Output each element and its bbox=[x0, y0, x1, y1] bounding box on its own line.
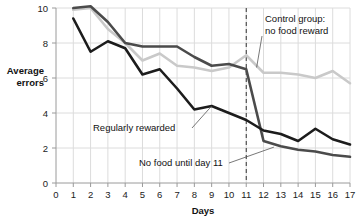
x-tick-label-8: 8 bbox=[192, 189, 197, 200]
x-tick-label-7: 7 bbox=[174, 189, 179, 200]
y-tick-label-10: 10 bbox=[37, 3, 48, 14]
y-axis-title-line2: errors bbox=[17, 77, 44, 88]
y-tick-label-8: 8 bbox=[43, 38, 48, 49]
y-axis-title-line1: Average bbox=[7, 65, 44, 76]
x-tick-label-16: 16 bbox=[327, 189, 338, 200]
line-chart: 01234567891011121314151617 0246810 Days … bbox=[0, 0, 357, 222]
x-tick-label-2: 2 bbox=[88, 189, 93, 200]
x-tick-label-1: 1 bbox=[71, 189, 76, 200]
annotation-regularly-rewarded-label: Regularly rewarded bbox=[93, 122, 175, 133]
y-tick-label-2: 2 bbox=[43, 143, 48, 154]
x-tick-label-14: 14 bbox=[293, 189, 304, 200]
x-tick-label-6: 6 bbox=[157, 189, 162, 200]
x-tick-label-3: 3 bbox=[105, 189, 110, 200]
annotation-control-line1: Control group: bbox=[265, 13, 325, 24]
x-tick-label-11: 11 bbox=[241, 189, 251, 200]
x-tick-label-4: 4 bbox=[123, 189, 128, 200]
chart-container: 01234567891011121314151617 0246810 Days … bbox=[0, 0, 357, 222]
x-tick-label-15: 15 bbox=[310, 189, 321, 200]
annotation-control-line2: no food reward bbox=[265, 25, 328, 36]
x-tick-label-17: 17 bbox=[345, 189, 356, 200]
y-tick-label-4: 4 bbox=[43, 108, 48, 119]
x-tick-label-5: 5 bbox=[140, 189, 145, 200]
y-tick-label-0: 0 bbox=[43, 178, 48, 189]
x-tick-label-9: 9 bbox=[209, 189, 214, 200]
x-tick-label-13: 13 bbox=[276, 189, 287, 200]
x-tick-label-12: 12 bbox=[258, 189, 269, 200]
x-axis-title: Days bbox=[192, 205, 215, 216]
x-tick-label-0: 0 bbox=[53, 189, 58, 200]
annotation-no-food-label: No food until day 11 bbox=[139, 157, 223, 168]
x-tick-label-10: 10 bbox=[224, 189, 235, 200]
